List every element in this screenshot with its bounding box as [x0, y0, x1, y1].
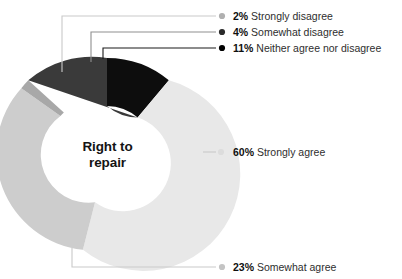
- label-text-neither-agree-nor-disagree: Neither agree nor disagree: [256, 42, 381, 54]
- chart-center-label: Right to repair: [59, 126, 156, 184]
- leader-dot-somewhat-disagree: [219, 29, 225, 35]
- label-percent-strongly-disagree: 2%: [233, 10, 251, 22]
- leader-dot-somewhat-agree: [219, 264, 225, 270]
- leader-line-somewhat-disagree: [91, 32, 216, 62]
- label-neither-agree-nor-disagree[interactable]: 11% Neither agree nor disagree: [233, 43, 381, 54]
- label-somewhat-agree[interactable]: 23% Somewhat agree: [233, 262, 336, 273]
- label-text-somewhat-agree: Somewhat agree: [257, 261, 336, 273]
- label-percent-somewhat-agree: 23%: [233, 261, 257, 273]
- label-strongly-agree[interactable]: 60% Strongly agree: [233, 147, 325, 158]
- label-somewhat-disagree[interactable]: 4% Somewhat disagree: [233, 27, 344, 38]
- label-percent-somewhat-disagree: 4%: [233, 26, 251, 38]
- donut-chart: Right to repair 2% Strongly disagree 4% …: [0, 0, 402, 279]
- label-text-somewhat-disagree: Somewhat disagree: [251, 26, 344, 38]
- leader-dot-neither-agree-nor-disagree: [219, 45, 225, 51]
- center-label-line-1: Right to: [82, 139, 132, 155]
- center-label-line-2: repair: [89, 155, 126, 171]
- label-text-strongly-disagree: Strongly disagree: [251, 10, 333, 22]
- label-strongly-disagree[interactable]: 2% Strongly disagree: [233, 11, 333, 22]
- leader-dot-strongly-disagree: [219, 13, 225, 19]
- label-text-strongly-agree: Strongly agree: [257, 146, 325, 158]
- label-percent-strongly-agree: 60%: [233, 146, 257, 158]
- leader-line-neither-agree-nor-disagree: [103, 48, 216, 59]
- leader-dot-strongly-agree: [218, 149, 224, 155]
- label-percent-neither-agree-nor-disagree: 11%: [233, 42, 256, 54]
